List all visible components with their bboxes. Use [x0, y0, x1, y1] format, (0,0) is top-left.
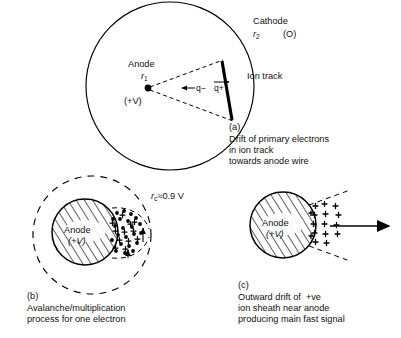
panel-a-caption: Drift of primary electronsin ion trackto…: [229, 134, 329, 168]
anode-wire-point: [145, 85, 152, 92]
cone-line-upper: [150, 60, 223, 87]
proportional-counter-figure: [0, 0, 401, 338]
q-minus-label: q−: [196, 83, 206, 93]
cathode-potential-label: (O): [283, 29, 296, 40]
panel-c-caption: Outward drift of +veion sheath near anod…: [238, 292, 345, 326]
ion-track-label: Ion track: [247, 71, 282, 82]
panel-b-graphics: [33, 176, 151, 294]
cathode-radius-label: r2: [253, 29, 260, 41]
panel-b-caption: Avalanche/multiplicationprocess for one …: [27, 303, 126, 325]
ion-sheath-marks: [309, 202, 341, 246]
anode-radius-label: r1: [141, 71, 148, 83]
q-plus-label: q+: [214, 83, 224, 93]
anode-label-a: Anode: [128, 59, 155, 70]
critical-radius-label: rc≈0.9 V: [151, 191, 184, 203]
panel-a-id: (a): [229, 122, 240, 133]
anode-potential-label-a: (+V): [124, 96, 142, 107]
anode-label-c: Anode: [262, 218, 289, 229]
cone-line-lower: [150, 90, 233, 121]
anode-label-b: Anode: [64, 225, 91, 236]
panel-c-id: (c): [238, 280, 249, 291]
cathode-label: Cathode: [253, 16, 288, 27]
anode-potential-label-b: (+V): [68, 236, 86, 247]
panel-b-id: (b): [27, 291, 38, 302]
anode-potential-label-c: (+V): [266, 229, 284, 240]
